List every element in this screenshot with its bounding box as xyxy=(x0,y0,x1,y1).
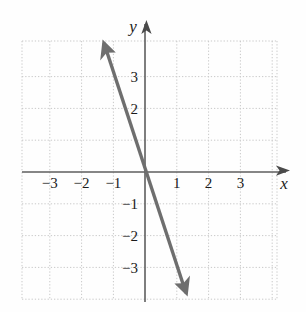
coordinate-plane-figure: −3 −2 −1 1 2 3 3 2 −1 −2 −3 x y xyxy=(0,0,306,312)
figure-background xyxy=(0,0,306,312)
x-tick-label: −2 xyxy=(74,175,90,191)
y-tick-label: −3 xyxy=(122,260,138,276)
x-tick-label: −1 xyxy=(105,175,121,191)
graph-screenshot: −3 −2 −1 1 2 3 3 2 −1 −2 −3 x y xyxy=(0,0,306,312)
x-tick-label: 3 xyxy=(237,175,245,191)
y-axis-label: y xyxy=(127,17,137,36)
y-tick-label: 2 xyxy=(131,101,139,117)
x-tick-label: 1 xyxy=(173,175,181,191)
y-tick-label: 3 xyxy=(131,69,139,85)
y-tick-label: −2 xyxy=(122,228,138,244)
y-tick-label: −1 xyxy=(122,196,138,212)
x-axis-label: x xyxy=(279,174,288,193)
x-tick-label: 2 xyxy=(205,175,213,191)
x-tick-label: −3 xyxy=(42,175,58,191)
